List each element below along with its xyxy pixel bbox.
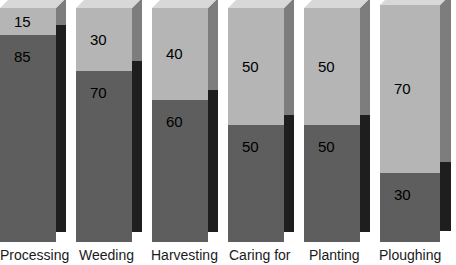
bar-side-face-upper [208,0,218,100]
bar-segment-lower[interactable] [380,173,440,242]
category-label: Ploughing [379,247,441,263]
bar-value-lower: 50 [242,139,259,154]
bar-column[interactable]: 5050 [304,0,370,265]
bar-side-face-lower [56,25,66,232]
bar-side-face-upper [360,0,370,125]
bar-value-upper: 50 [242,59,259,74]
category-label: Processing [0,247,69,263]
bar-value-lower: 70 [90,85,107,100]
bar-top-face [380,0,451,5]
bar-column[interactable]: 3070 [76,0,142,265]
category-label: Weeding [79,247,134,263]
bar-column[interactable]: 7030 [380,0,451,265]
bar-top-face [304,0,370,8]
stacked-bar-chart: 1585Processing3070Weeding4060Harvesting5… [0,0,456,265]
bar-side-face-lower [284,115,294,232]
bar-top-face [0,0,66,8]
category-label: Planting [309,247,360,263]
bar-side-face-upper [440,0,451,173]
bar-column[interactable]: 5050 [228,0,294,265]
bar-top-face [152,0,218,8]
bar-value-upper: 15 [14,14,31,29]
bar-side-face-lower [360,115,370,232]
bar-segment-lower[interactable] [0,35,56,242]
bar-value-lower: 85 [14,49,31,64]
bar-top-face [228,0,294,8]
bar-column[interactable]: 1585 [0,0,66,265]
bar-value-lower: 30 [394,187,411,202]
bar-value-lower: 50 [318,139,335,154]
bar-side-face-lower [132,61,142,232]
category-label: Caring for [229,247,290,263]
bar-column[interactable]: 4060 [152,0,218,265]
bar-value-upper: 50 [318,59,335,74]
bar-value-lower: 60 [166,114,183,129]
bar-side-face-upper [284,0,294,125]
bar-value-upper: 70 [394,81,411,96]
category-label: Harvesting [151,247,218,263]
bar-value-upper: 30 [90,32,107,47]
bar-value-upper: 40 [166,46,183,61]
bar-side-face-lower [208,90,218,232]
bar-top-face [76,0,142,8]
bar-side-face-lower [440,162,451,231]
